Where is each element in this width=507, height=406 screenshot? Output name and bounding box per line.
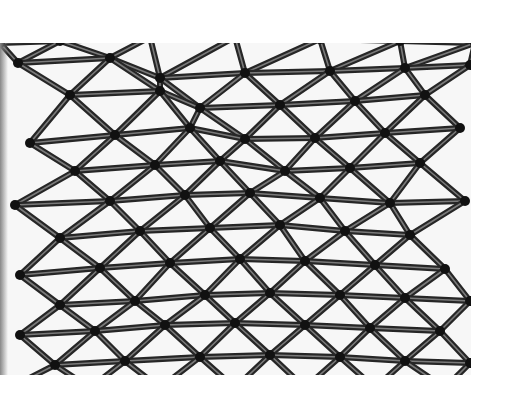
- lattice-node: [55, 233, 65, 243]
- strut-highlight: [340, 295, 370, 328]
- strut-highlight: [185, 161, 220, 195]
- lattice-node: [105, 53, 115, 63]
- strut-highlight: [20, 275, 60, 305]
- lattice-node: [400, 293, 410, 303]
- strut-highlight: [285, 138, 315, 171]
- strut-highlight: [280, 198, 320, 225]
- lattice-node: [195, 352, 205, 362]
- lattice-node: [110, 130, 120, 140]
- roof-lattice-photo: Triangulated steel lattice glass roof vi…: [0, 43, 471, 375]
- lattice-node: [300, 256, 310, 266]
- strut-highlight: [445, 269, 470, 301]
- strut-highlight: [75, 171, 110, 201]
- strut-highlight: [390, 203, 410, 235]
- strut-highlight: [405, 68, 425, 95]
- lattice-node: [350, 96, 360, 106]
- lattice-node: [120, 356, 130, 366]
- lattice-node: [280, 166, 290, 176]
- lattice-node: [460, 196, 470, 206]
- strut-highlight: [345, 231, 375, 265]
- lattice-node: [300, 320, 310, 330]
- strut-highlight: [305, 325, 340, 357]
- strut-highlight: [340, 265, 375, 295]
- strut-highlight: [240, 225, 280, 259]
- strut-highlight: [165, 325, 200, 357]
- lattice-node: [405, 230, 415, 240]
- strut-highlight: [100, 268, 135, 301]
- lattice-node: [215, 156, 225, 166]
- lattice-node: [275, 220, 285, 230]
- strut-highlight: [210, 228, 240, 259]
- strut-highlight: [405, 298, 440, 331]
- lattice-node: [400, 356, 410, 366]
- strut-highlight: [235, 323, 270, 355]
- lattice-node: [15, 270, 25, 280]
- lattice-node: [385, 198, 395, 208]
- strut-highlight: [345, 203, 390, 231]
- lattice-node: [13, 58, 23, 68]
- strut-highlight: [340, 328, 370, 357]
- strut-highlight: [250, 171, 285, 193]
- strut-highlight: [370, 298, 405, 328]
- strut-highlight: [375, 265, 405, 298]
- strut-highlight: [115, 135, 155, 165]
- lattice-node: [55, 300, 65, 310]
- lattice-node: [415, 158, 425, 168]
- lattice-node: [195, 103, 205, 113]
- strut-highlight: [440, 301, 470, 331]
- lattice-node: [130, 296, 140, 306]
- lattice-node: [345, 163, 355, 173]
- lattice-node: [95, 263, 105, 273]
- strut-highlight: [405, 269, 445, 298]
- strut-highlight: [30, 143, 75, 171]
- strut-highlight: [155, 165, 185, 195]
- lattice-node: [15, 330, 25, 340]
- strut-highlight: [270, 325, 305, 355]
- lattice-node: [380, 128, 390, 138]
- strut-highlight: [95, 331, 125, 361]
- lattice-node: [440, 264, 450, 274]
- strut-highlight: [135, 263, 170, 301]
- strut-highlight: [440, 331, 470, 363]
- strut-highlight: [270, 261, 305, 293]
- strut-highlight: [235, 293, 270, 323]
- lattice-node: [325, 66, 335, 76]
- strut-highlight: [245, 73, 280, 105]
- lattice-node: [240, 134, 250, 144]
- lattice-node: [155, 86, 165, 96]
- strut-highlight: [110, 201, 140, 231]
- lattice-node: [420, 90, 430, 100]
- lattice-node: [185, 123, 195, 133]
- strut-highlight: [185, 195, 210, 228]
- strut-highlight: [270, 293, 305, 325]
- strut-highlight: [170, 263, 205, 295]
- strut-highlight: [30, 95, 70, 143]
- strut-highlight: [245, 105, 280, 139]
- strut-highlight: [280, 105, 315, 138]
- lattice-node: [335, 352, 345, 362]
- lattice-node: [180, 190, 190, 200]
- lattice-node: [155, 73, 165, 83]
- lattice-node: [165, 258, 175, 268]
- lattice-node: [235, 254, 245, 264]
- strut-highlight: [55, 331, 95, 365]
- strut-highlight: [305, 295, 340, 325]
- strut-highlight: [410, 235, 445, 269]
- strut-highlight: [20, 335, 55, 365]
- strut-highlight: [405, 331, 440, 361]
- strut-highlight: [205, 259, 240, 295]
- strut-highlight: [390, 163, 420, 203]
- strut-highlight: [170, 228, 210, 263]
- lattice-node: [90, 326, 100, 336]
- lattice-node: [150, 160, 160, 170]
- strut-highlight: [320, 168, 350, 198]
- strut-highlight: [70, 95, 115, 135]
- strut-highlight: [420, 163, 465, 201]
- lattice-node: [365, 323, 375, 333]
- strut-highlight: [350, 133, 385, 168]
- strut-highlight: [305, 261, 340, 295]
- strut-highlight: [385, 133, 420, 163]
- strut-highlight: [370, 328, 405, 361]
- strut-highlight: [70, 58, 110, 95]
- lattice-node: [370, 260, 380, 270]
